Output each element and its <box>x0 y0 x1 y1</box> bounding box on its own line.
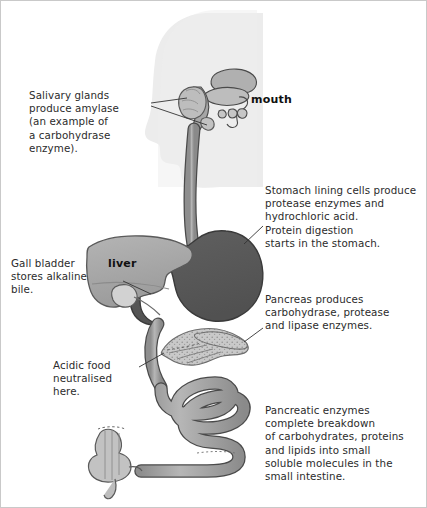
diagram-frame: mouth liver Salivary glands produce amyl… <box>0 0 427 508</box>
leader-pancreas <box>244 328 263 342</box>
annotation-pancreatic-enzymes: Pancreatic enzymes complete breakdown of… <box>265 404 425 483</box>
organ-label-mouth: mouth <box>251 93 292 106</box>
oesophagus-tube <box>190 129 194 245</box>
annotation-stomach: Stomach lining cells produce protease en… <box>265 184 427 250</box>
large-intestine-group <box>88 427 142 499</box>
parotid-gland-shape <box>179 87 206 119</box>
annotation-acidic-food: Acidic food neutralised here. <box>53 359 165 399</box>
annotation-pancreas: Pancreas produces carbohydrase, protease… <box>265 293 425 333</box>
annotation-gall-bladder: Gall bladder stores alkaline bile. <box>11 257 133 297</box>
tooth-3 <box>237 109 247 119</box>
intestine-dash-detail <box>197 452 235 454</box>
tooth-2 <box>228 109 237 118</box>
annotation-salivary-glands: Salivary glands produce amylase (an exam… <box>29 89 179 155</box>
colon-junction-dash <box>98 427 125 429</box>
tooth-1 <box>218 110 226 118</box>
rectum-shape <box>88 429 131 482</box>
pancreas-group <box>161 328 248 365</box>
leader-stomach <box>244 226 263 244</box>
